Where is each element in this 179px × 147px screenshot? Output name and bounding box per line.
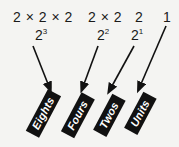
arrow-layer — [0, 0, 179, 147]
binary-place-value-figure: 2 × 2 × 2 2 × 2 2 1 23 22 21 Eights Four… — [0, 0, 179, 147]
arrow-to-eights — [33, 46, 48, 84]
arrow-to-fours — [84, 46, 98, 84]
arrow-to-twos — [112, 46, 134, 86]
arrow-to-units — [141, 26, 166, 84]
